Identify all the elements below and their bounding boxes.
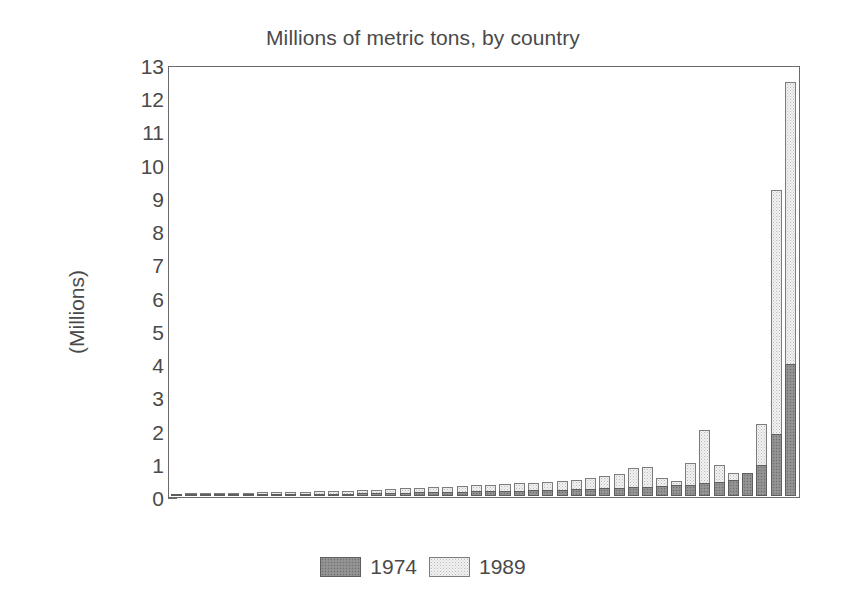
bar-group	[184, 68, 198, 497]
y-axis-tick-label: 11	[142, 122, 164, 143]
bar-group	[198, 68, 212, 497]
bar-1974	[514, 491, 525, 497]
bar-group	[384, 68, 398, 497]
legend-item-1974: 1974	[320, 556, 417, 577]
bar-group	[555, 68, 569, 497]
bar-1974	[614, 488, 625, 497]
bar-1974	[342, 494, 353, 497]
bar-1974	[471, 491, 482, 496]
bar-group	[327, 68, 341, 497]
bar-1974	[285, 494, 296, 496]
y-axis-tick-mark	[168, 498, 177, 499]
y-axis-tick-labels: 131211109876543210	[118, 66, 164, 498]
bar-1974	[171, 494, 182, 496]
bar-1974	[214, 494, 225, 496]
bar-group	[241, 68, 255, 497]
bar-1974	[328, 494, 339, 497]
bar-1974	[442, 492, 453, 496]
bar-group	[783, 68, 797, 497]
y-axis-tick-label: 9	[152, 188, 164, 209]
bar-group	[227, 68, 241, 497]
bar-1974	[357, 493, 368, 496]
bar-group	[441, 68, 455, 497]
bar-1974	[243, 494, 254, 496]
bar-1974	[599, 488, 610, 496]
y-axis-tick-label: 8	[152, 222, 164, 243]
y-axis-tick-label: 3	[152, 388, 164, 409]
bar-1974	[756, 465, 767, 496]
bar-1974	[671, 485, 682, 496]
bar-group	[641, 68, 655, 497]
y-axis-tick-label: 4	[152, 355, 164, 376]
bar-group	[626, 68, 640, 497]
bar-1974	[571, 489, 582, 496]
y-axis-tick-label: 7	[152, 255, 164, 276]
bar-1974	[200, 494, 211, 496]
bar-group	[598, 68, 612, 497]
bar-1974	[228, 494, 239, 496]
bar-series-layer	[170, 68, 798, 497]
y-axis-tick-label: 0	[152, 488, 164, 509]
bar-group	[427, 68, 441, 497]
bar-group	[212, 68, 226, 497]
bar-group	[669, 68, 683, 497]
bar-group	[270, 68, 284, 497]
legend-item-1989: 1989	[429, 556, 526, 577]
bar-1974	[271, 494, 282, 496]
bar-group	[755, 68, 769, 497]
bar-1974	[714, 482, 725, 497]
bar-group	[170, 68, 184, 497]
bar-group	[484, 68, 498, 497]
bar-1974	[771, 434, 782, 497]
bar-1974	[642, 487, 653, 497]
bar-group	[584, 68, 598, 497]
bar-group	[569, 68, 583, 497]
bar-1974	[371, 493, 382, 496]
y-axis-tick-label: 13	[141, 56, 164, 77]
bar-group	[498, 68, 512, 497]
bar-1974	[728, 480, 739, 497]
bar-1974	[785, 364, 796, 496]
bar-1974	[542, 490, 553, 496]
bar-group	[255, 68, 269, 497]
chart-figure: Millions of metric tons, by country (Mil…	[0, 0, 846, 615]
bar-group	[655, 68, 669, 497]
bar-group	[526, 68, 540, 497]
bar-group	[769, 68, 783, 497]
bar-group	[541, 68, 555, 497]
bar-1974	[185, 494, 196, 496]
bar-1974	[257, 494, 268, 496]
bar-group	[712, 68, 726, 497]
legend-swatch-1974-icon	[320, 557, 361, 577]
bar-group	[398, 68, 412, 497]
legend-label-1989: 1989	[479, 556, 526, 577]
legend-swatch-1989-icon	[429, 557, 470, 577]
bar-1974	[385, 493, 396, 496]
bar-group	[726, 68, 740, 497]
bar-1974	[428, 492, 439, 496]
chart-legend: 1974 1989	[0, 556, 846, 577]
y-axis-tick-label: 1	[152, 454, 164, 475]
y-axis-tick-label: 2	[152, 421, 164, 442]
bar-group	[369, 68, 383, 497]
y-axis-tick-label: 5	[152, 321, 164, 342]
bar-1974	[685, 485, 696, 497]
bar-1974	[557, 490, 568, 497]
bar-group	[741, 68, 755, 497]
bar-1974	[314, 494, 325, 497]
bar-1974	[742, 473, 753, 496]
bar-group	[355, 68, 369, 497]
bar-group	[612, 68, 626, 497]
legend-label-1974: 1974	[370, 556, 417, 577]
bar-1974	[585, 489, 596, 496]
y-axis-label: (Millions)	[65, 212, 89, 412]
y-axis-tick-label: 6	[152, 288, 164, 309]
bar-1974	[457, 492, 468, 497]
bar-group	[412, 68, 426, 497]
bar-1974	[628, 487, 639, 496]
bar-group	[284, 68, 298, 497]
chart-title: Millions of metric tons, by country	[0, 26, 846, 50]
bar-group	[312, 68, 326, 497]
bar-group	[469, 68, 483, 497]
bar-group	[683, 68, 697, 497]
